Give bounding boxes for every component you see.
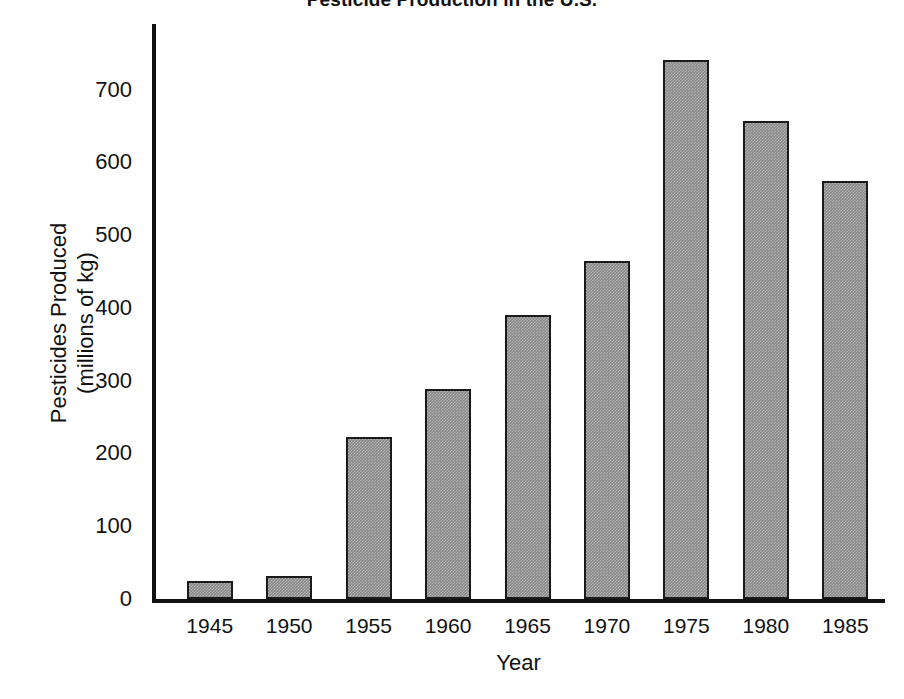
- x-axis-tick-label: 1950: [266, 614, 313, 638]
- chart-title: Pesticide Production in the U.S.: [0, 0, 904, 11]
- x-axis-tick-label: 1980: [742, 614, 789, 638]
- x-axis-tick-label: 1985: [822, 614, 869, 638]
- bar: [822, 181, 868, 600]
- bar: [663, 60, 709, 599]
- x-axis-tick-label: 1975: [663, 614, 710, 638]
- plot-area: [152, 24, 885, 603]
- x-axis-tick-label: 1960: [425, 614, 472, 638]
- x-axis-tick-label: 1955: [345, 614, 392, 638]
- bar: [187, 581, 233, 599]
- bar: [505, 315, 551, 599]
- y-axis-line: [152, 24, 156, 603]
- bar: [346, 437, 392, 599]
- x-axis-tick-labels: 194519501955196019651970197519801985: [152, 614, 885, 642]
- bar: [425, 389, 471, 599]
- bar: [584, 261, 630, 599]
- x-axis-line: [152, 599, 885, 603]
- y-axis-title-line-2: (millions of kg): [72, 63, 99, 583]
- x-axis-tick-label: 1965: [504, 614, 551, 638]
- bar-chart-figure: Pesticide Production in the U.S. 7006005…: [0, 0, 904, 699]
- bar: [743, 121, 789, 599]
- y-axis-title-line-1: Pesticides Produced: [45, 63, 72, 583]
- bar: [266, 576, 312, 599]
- y-axis-tick-label: 0: [68, 588, 132, 610]
- y-axis-title: Pesticides Produced (millions of kg): [45, 63, 99, 583]
- x-axis-tick-label: 1970: [584, 614, 631, 638]
- x-axis-tick-label: 1945: [186, 614, 233, 638]
- x-axis-title: Year: [152, 650, 885, 676]
